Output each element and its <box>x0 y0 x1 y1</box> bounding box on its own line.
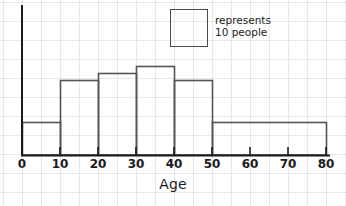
legend-caption-line-1: represents <box>215 14 271 26</box>
x-tick-label-0: 0 <box>9 158 35 171</box>
histogram-bar <box>137 67 175 156</box>
x-tick-label-10: 10 <box>47 158 73 171</box>
x-tick-label-20: 20 <box>85 158 111 171</box>
x-axis-title: Age <box>0 176 346 192</box>
legend-caption: represents 10 people <box>215 14 271 38</box>
legend-caption-line-2: 10 people <box>215 26 271 38</box>
x-tick-label-80: 80 <box>313 158 339 171</box>
histogram-bar <box>175 81 213 156</box>
histogram-bars <box>23 67 327 156</box>
histogram-bar <box>61 81 99 156</box>
age-histogram-figure: 0 10 20 30 40 50 60 70 80 Age represents… <box>0 0 346 206</box>
histogram-bar <box>23 123 61 156</box>
x-tick-label-50: 50 <box>199 158 225 171</box>
histogram-bar <box>99 74 137 156</box>
x-tick-label-40: 40 <box>161 158 187 171</box>
x-tick-label-60: 60 <box>237 158 263 171</box>
legend-key-square-icon <box>170 9 208 47</box>
x-tick-label-70: 70 <box>275 158 301 171</box>
x-tick-label-30: 30 <box>123 158 149 171</box>
histogram-bar <box>213 123 327 156</box>
